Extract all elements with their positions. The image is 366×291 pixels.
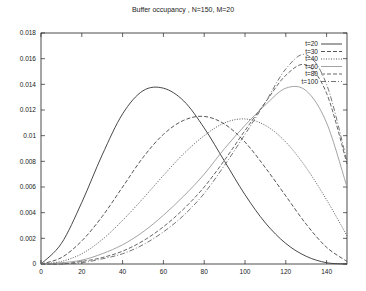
series-lines [41,54,347,264]
legend-label: t=40 [305,55,318,62]
y-tick-label: 0.002 [20,235,37,242]
y-tick-label: 0.014 [20,81,37,88]
series-line [41,54,347,264]
legend-label: t=30 [305,48,318,55]
x-tick-label: 140 [321,268,332,275]
legend-label: t=20 [305,40,318,47]
y-tick-label: 0.008 [20,158,37,165]
y-tick-label: 0.006 [20,183,37,190]
y-tick-label: 0.012 [20,106,37,113]
line-chart: 00.0020.0040.0060.0080.010.0120.0140.016… [0,0,366,291]
y-tick-label: 0.018 [20,29,37,36]
y-tick-label: 0.01 [23,132,36,139]
y-tick-label: 0 [32,260,36,267]
y-axis: 00.0020.0040.0060.0080.010.0120.0140.016… [20,29,347,267]
legend-label: t=100 [302,78,319,85]
legend: t=20t=30t=40t=60t=80t=100 [302,40,342,85]
x-axis: 020406080100120140 [39,33,332,275]
series-line [41,64,347,264]
plot-frame [41,33,347,264]
x-tick-label: 100 [240,268,251,275]
y-tick-label: 0.004 [20,209,37,216]
series-line [41,87,347,264]
x-tick-label: 120 [280,268,291,275]
x-tick-label: 60 [160,268,168,275]
legend-label: t=80 [305,70,318,77]
y-tick-label: 0.016 [20,55,37,62]
x-tick-label: 20 [78,268,86,275]
x-tick-label: 40 [119,268,127,275]
x-tick-label: 80 [201,268,209,275]
x-tick-label: 0 [39,268,43,275]
legend-label: t=60 [305,63,318,70]
